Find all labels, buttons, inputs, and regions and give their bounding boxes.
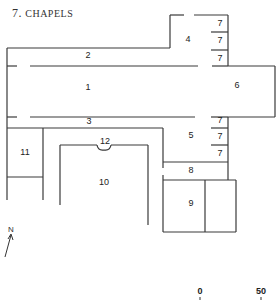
room-5-label: 5: [188, 130, 193, 140]
room-7d-label: 7: [217, 115, 222, 125]
room-11-label: 11: [20, 147, 29, 157]
room-7e-label: 7: [217, 131, 222, 141]
north-arrow: N: [5, 225, 14, 257]
room-9-label: 9: [188, 198, 193, 208]
room-10-label: 10: [99, 177, 109, 187]
room-7f-label: 7: [217, 148, 222, 158]
north-label: N: [8, 225, 14, 234]
room-7a-label: 7: [217, 18, 222, 28]
room-4-label: 4: [185, 34, 190, 44]
room-3-label: 3: [86, 116, 91, 126]
room-12-label: 12: [100, 136, 110, 146]
room-7c-label: 7: [217, 53, 222, 63]
room-7b-label: 7: [217, 35, 222, 45]
room-8-label: 8: [188, 165, 193, 175]
room-2-label: 2: [85, 50, 90, 60]
scale-end-label: 50: [256, 286, 266, 296]
room-6-label: 6: [234, 80, 239, 90]
floor-plan: 2 1 3 4 5 6 7 7 7 7 7 7 8 9 10 11 12 N 0…: [0, 0, 277, 300]
scale-bar: 0 50: [197, 286, 266, 300]
scale-start-label: 0: [197, 286, 202, 296]
room-1-label: 1: [85, 82, 90, 92]
